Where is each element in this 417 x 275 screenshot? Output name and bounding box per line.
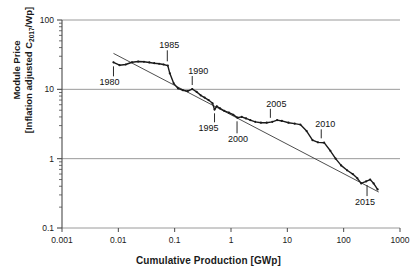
- data-point-marker: [173, 82, 175, 84]
- data-point-marker: [213, 109, 215, 111]
- data-point-marker: [376, 188, 378, 190]
- data-point-marker: [200, 94, 202, 96]
- data-point-marker: [131, 61, 133, 63]
- data-point-marker: [335, 158, 337, 160]
- data-point-marker: [356, 177, 358, 179]
- data-point-marker: [158, 63, 160, 65]
- data-point-marker: [360, 182, 362, 184]
- data-point-marker: [249, 119, 251, 121]
- data-point-marker: [207, 99, 209, 101]
- data-point-marker: [281, 120, 283, 122]
- data-point-marker: [118, 64, 120, 66]
- data-point-marker: [346, 169, 348, 171]
- xtick-label-1000: 1000: [391, 235, 410, 245]
- chart-figure: 0.0010.010.111010010001001010.1 19801985…: [0, 0, 417, 275]
- data-point-marker: [187, 90, 189, 92]
- data-point-marker: [260, 122, 262, 124]
- data-point-marker: [323, 142, 325, 144]
- annotation-label-2000: 2000: [228, 134, 248, 144]
- data-point-marker: [271, 121, 273, 123]
- annotation-label-1990: 1990: [188, 66, 208, 76]
- data-point-marker: [254, 121, 256, 123]
- annotation-label-2015: 2015: [355, 197, 375, 207]
- data-point-marker: [228, 112, 230, 114]
- data-point-marker: [182, 89, 184, 91]
- data-point-marker: [276, 119, 278, 121]
- data-point-marker: [177, 87, 179, 89]
- module-price-learning-curve-chart: 0.0010.010.111010010001001010.1 19801985…: [0, 0, 417, 275]
- data-point-marker: [232, 114, 234, 116]
- data-point-marker: [153, 62, 155, 64]
- data-point-marker: [373, 182, 375, 184]
- xtick-label-0.001: 0.001: [51, 235, 73, 245]
- data-point-marker: [329, 150, 331, 152]
- data-point-marker: [216, 105, 218, 107]
- data-point-marker: [137, 60, 139, 62]
- annotation-label-1980: 1980: [99, 77, 119, 87]
- data-point-marker: [211, 102, 213, 104]
- year-annotations: 19801985199019952000200520102015: [99, 40, 375, 207]
- data-point-marker: [204, 97, 206, 99]
- xtick-label-10: 10: [283, 235, 293, 245]
- axis-tick-labels: 0.0010.010.111010010001001010.1: [40, 15, 410, 245]
- ytick-label-100: 100: [40, 15, 54, 25]
- data-point-marker: [169, 72, 171, 74]
- data-point-marker: [219, 107, 221, 109]
- ytick-label-1: 1: [49, 154, 54, 164]
- xtick-label-0.01: 0.01: [110, 235, 127, 245]
- data-point-marker: [125, 63, 127, 65]
- annotation-label-1995: 1995: [199, 123, 219, 133]
- trend-line: [113, 53, 378, 192]
- xtick-label-1: 1: [229, 235, 234, 245]
- data-point-marker: [317, 141, 319, 143]
- data-point-marker: [236, 117, 238, 119]
- data-point-marker: [143, 61, 145, 63]
- data-point-marker: [287, 122, 289, 124]
- x-axis-label: Cumulative Production [GWp]: [0, 255, 417, 266]
- data-point-marker: [112, 61, 114, 63]
- data-point-marker: [294, 123, 296, 125]
- data-point-marker: [148, 61, 150, 63]
- ytick-label-10: 10: [45, 84, 55, 94]
- learning-curve-trendline: [113, 53, 378, 192]
- ytick-label-0.1: 0.1: [42, 223, 54, 233]
- data-point-marker: [299, 124, 301, 126]
- data-point-marker: [245, 117, 247, 119]
- axis-ticks: [57, 20, 400, 232]
- xtick-label-0.1: 0.1: [169, 235, 181, 245]
- data-point-marker: [369, 178, 371, 180]
- data-point-marker: [167, 64, 169, 66]
- data-point-marker: [306, 130, 308, 132]
- annotation-label-1985: 1985: [159, 40, 179, 50]
- data-point-marker: [266, 122, 268, 124]
- data-point-marker: [365, 180, 367, 182]
- data-point-marker: [241, 116, 243, 118]
- data-point-marker: [195, 91, 197, 93]
- data-point-marker: [223, 110, 225, 112]
- xtick-label-100: 100: [337, 235, 351, 245]
- data-point-marker: [311, 139, 313, 141]
- annotation-label-2010: 2010: [315, 119, 335, 129]
- data-point-marker: [340, 164, 342, 166]
- data-point-marker: [191, 88, 193, 90]
- annotation-label-2005: 2005: [266, 99, 286, 109]
- gridlines: [62, 20, 400, 228]
- data-point-marker: [162, 63, 164, 65]
- data-point-marker: [352, 173, 354, 175]
